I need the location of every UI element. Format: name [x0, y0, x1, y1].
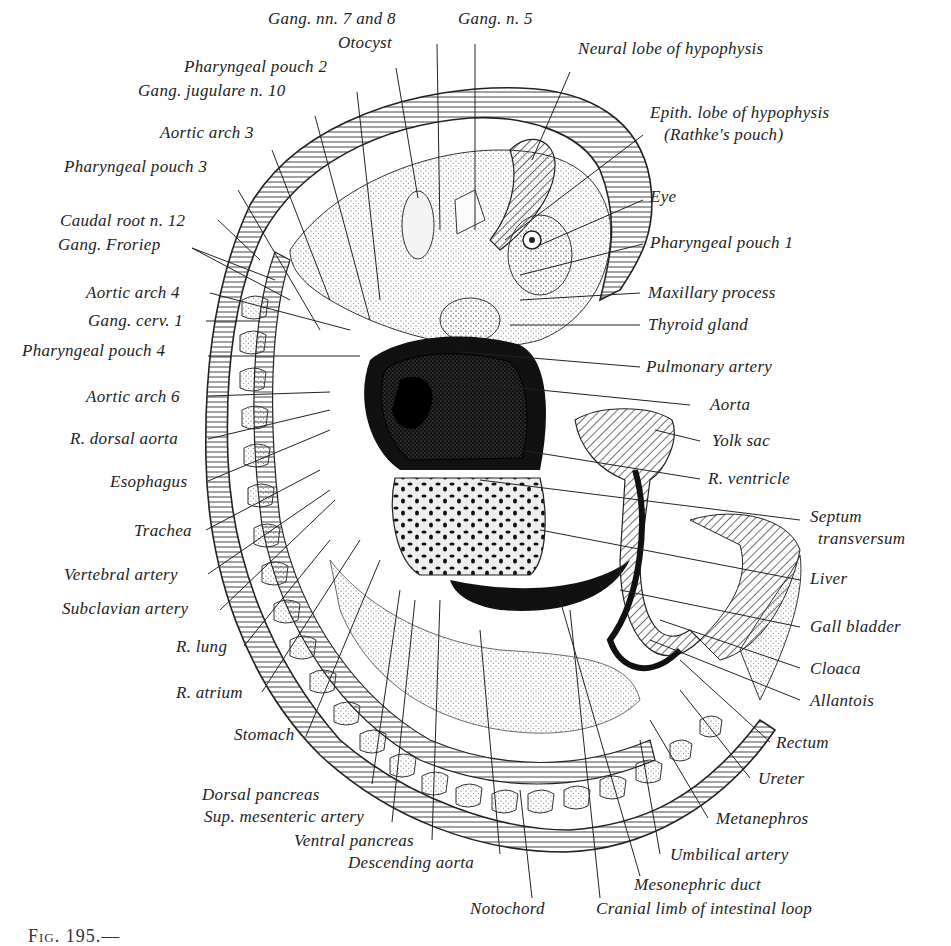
label-ureter: Ureter — [758, 770, 805, 788]
label-descending-aorta: Descending aorta — [348, 854, 474, 872]
label-vertebral-artery: Vertebral artery — [64, 566, 178, 584]
label-rathkes-pouch: (Rathke's pouch) — [664, 126, 783, 144]
label-umbilical-artery: Umbilical artery — [670, 846, 789, 864]
label-aorta: Aorta — [710, 396, 750, 414]
head-region — [290, 139, 611, 346]
label-esophagus: Esophagus — [110, 473, 187, 491]
label-r-ventricle: R. ventricle — [708, 470, 790, 488]
label-thyroid-gland: Thyroid gland — [648, 316, 748, 334]
label-neural-lobe-hypophysis: Neural lobe of hypophysis — [578, 40, 764, 58]
label-aortic-arch-4: Aortic arch 4 — [86, 284, 180, 302]
label-otocyst: Otocyst — [338, 34, 392, 52]
label-gang-cerv-1: Gang. cerv. 1 — [88, 312, 183, 330]
label-pharyngeal-pouch-1: Pharyngeal pouch 1 — [650, 234, 793, 252]
label-septum: Septum — [810, 508, 862, 526]
label-pulmonary-artery: Pulmonary artery — [646, 358, 772, 376]
label-stomach: Stomach — [234, 726, 295, 744]
label-trachea: Trachea — [134, 522, 192, 540]
label-ventral-pancreas: Ventral pancreas — [294, 832, 414, 850]
label-gall-bladder: Gall bladder — [810, 618, 901, 636]
label-subclavian-artery: Subclavian artery — [62, 600, 188, 618]
label-liver: Liver — [810, 570, 847, 588]
liver — [392, 478, 545, 575]
label-cloaca: Cloaca — [810, 660, 861, 678]
label-r-lung: R. lung — [176, 638, 227, 656]
label-aortic-arch-3: Aortic arch 3 — [160, 124, 254, 142]
label-mesonephric-duct: Mesonephric duct — [634, 876, 761, 894]
label-transversum: transversum — [818, 530, 905, 548]
label-gang-n-5: Gang. n. 5 — [458, 10, 533, 28]
label-sup-mesenteric-artery: Sup. mesenteric artery — [204, 808, 364, 826]
label-metanephros: Metanephros — [716, 810, 808, 828]
label-maxillary-process: Maxillary process — [648, 284, 776, 302]
label-epith-lobe-hypophysis: Epith. lobe of hypophysis — [650, 104, 829, 122]
label-rectum: Rectum — [776, 734, 829, 752]
label-r-dorsal-aorta: R. dorsal aorta — [70, 430, 178, 448]
label-cranial-limb-intestinal-loop: Cranial limb of intestinal loop — [596, 900, 812, 918]
label-gang-jugulare-n10: Gang. jugulare n. 10 — [138, 82, 286, 100]
label-eye: Eye — [650, 188, 676, 206]
label-gang-nn-7-8: Gang. nn. 7 and 8 — [268, 10, 396, 28]
label-r-atrium: R. atrium — [176, 684, 243, 702]
label-aortic-arch-6: Aortic arch 6 — [86, 388, 180, 406]
label-gang-froriep: Gang. Froriep — [58, 236, 160, 254]
label-pharyngeal-pouch-3: Pharyngeal pouch 3 — [64, 158, 207, 176]
label-allantois: Allantois — [810, 692, 874, 710]
label-yolk-sac: Yolk sac — [712, 432, 770, 450]
label-pharyngeal-pouch-2: Pharyngeal pouch 2 — [184, 58, 327, 76]
figure-caption-fragment: Fig. 195.— — [28, 926, 120, 946]
label-caudal-root-n12: Caudal root n. 12 — [60, 212, 185, 230]
label-dorsal-pancreas: Dorsal pancreas — [202, 786, 320, 804]
label-notochord: Notochord — [470, 900, 545, 918]
label-pharyngeal-pouch-4: Pharyngeal pouch 4 — [22, 342, 165, 360]
